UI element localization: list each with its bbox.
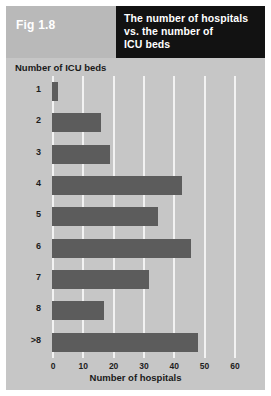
y-category-label-8: 8 [19,303,41,313]
bar-4 [52,176,182,195]
bar-7 [52,270,149,289]
figure-number-label: Fig 1.8 [16,18,55,32]
figure-title-block: The number of hospitals vs. the number o… [116,6,265,58]
x-tick-label-10: 10 [79,361,88,371]
chart-plot-area: 0102030405060 12345678>8 [46,76,251,358]
bar-3 [52,145,110,164]
bar-1 [52,82,58,101]
bar-row: 2 [46,107,251,138]
bar-row: 8 [46,295,251,326]
bar->8 [52,333,198,352]
bar-2 [52,113,101,132]
x-tick-label-60: 60 [230,361,239,371]
y-category-label-5: 5 [19,209,41,219]
bar-row: >8 [46,327,251,358]
figure-title-line-3: ICU beds [124,38,170,50]
y-category-label-6: 6 [19,241,41,251]
x-axis-title: Number of hospitals [6,372,265,383]
y-category-label-3: 3 [19,147,41,157]
x-tick-label-40: 40 [170,361,179,371]
y-axis-title: Number of ICU beds [15,62,106,73]
bar-8 [52,301,104,320]
bar-row: 1 [46,76,251,107]
bar-row: 3 [46,139,251,170]
figure-title-line-2: vs. the number of [124,25,213,37]
bar-row: 6 [46,233,251,264]
bar-5 [52,207,158,226]
y-category-label-2: 2 [19,115,41,125]
y-category-label-4: 4 [19,178,41,188]
bar-6 [52,239,191,258]
y-category-label->8: >8 [19,335,41,345]
x-tick-label-30: 30 [139,361,148,371]
bar-row: 7 [46,264,251,295]
figure-panel: Fig 1.8 The number of hospitals vs. the … [6,6,265,390]
figure-header: Fig 1.8 The number of hospitals vs. the … [6,6,265,58]
x-tick-label-20: 20 [109,361,118,371]
x-tick-label-0: 0 [51,361,56,371]
figure-label-block: Fig 1.8 [6,6,116,58]
x-tick-label-50: 50 [200,361,209,371]
figure-title-line-1: The number of hospitals [124,12,248,24]
y-category-label-7: 7 [19,272,41,282]
bar-row: 5 [46,201,251,232]
bar-row: 4 [46,170,251,201]
y-category-label-1: 1 [19,84,41,94]
